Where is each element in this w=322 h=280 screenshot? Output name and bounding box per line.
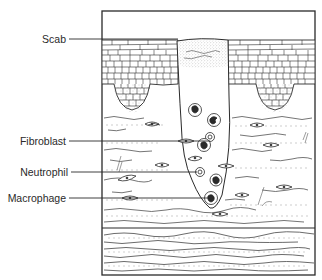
macrophage-cell xyxy=(198,139,211,152)
label-scab: Scab xyxy=(38,33,66,45)
macrophage-cell xyxy=(189,104,202,117)
label-neutrophil: Neutrophil xyxy=(8,166,68,178)
wound-healing-diagram: Scab Fibroblast Neutrophil Macrophage xyxy=(0,0,322,280)
label-fibroblast: Fibroblast xyxy=(8,135,66,147)
label-macrophage: Macrophage xyxy=(0,192,66,204)
macrophage-cell xyxy=(210,174,222,186)
macrophage-cell xyxy=(208,114,221,127)
scab xyxy=(178,40,228,68)
